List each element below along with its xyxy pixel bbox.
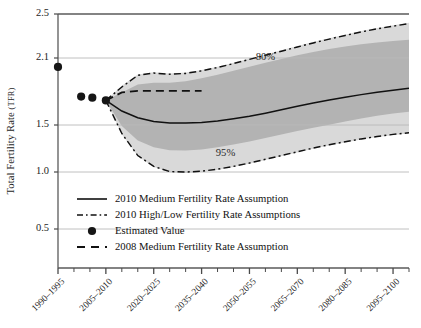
estimated-value-point bbox=[88, 94, 96, 102]
legend-item-highlow-2010[interactable]: 2010 High/Low Fertility Rate Assumptions bbox=[115, 208, 300, 220]
y-tick-label: 1.0 bbox=[36, 165, 49, 176]
legend-item-medium-2010[interactable]: 2010 Medium Fertility Rate Assumption bbox=[115, 192, 289, 204]
chart-svg: 80% 95% 0.51.01.52.12.5 1990–19952005–20… bbox=[0, 0, 421, 328]
x-tick-label: 2050–2055 bbox=[221, 276, 258, 313]
ninetyfive-percent-band-label: 95% bbox=[216, 147, 236, 158]
x-tick-label: 2020–2025 bbox=[125, 276, 162, 313]
legend-item-estimated-value[interactable]: Estimated Value bbox=[115, 224, 185, 236]
x-axis-ticks bbox=[58, 268, 409, 274]
y-tick-label: 2.5 bbox=[36, 7, 49, 18]
x-tick-label: 2065–2070 bbox=[269, 276, 306, 313]
x-tick-label: 2035–2040 bbox=[173, 276, 210, 313]
y-tick-label: 2.1 bbox=[36, 51, 49, 62]
x-tick-label: 2080–2085 bbox=[317, 276, 354, 313]
legend-item-medium-2008[interactable]: 2008 Medium Fertility Rate Assumption bbox=[115, 240, 289, 252]
svg-text:Total Fertility Rate (TFR): Total Fertility Rate (TFR) bbox=[5, 87, 16, 194]
y-axis-title-unit: (TFR) bbox=[7, 87, 16, 109]
y-axis-tick-labels: 0.51.01.52.12.5 bbox=[36, 7, 49, 233]
estimated-value-point bbox=[77, 92, 85, 100]
x-tick-label: 1990–1995 bbox=[30, 276, 67, 313]
estimated-value-point bbox=[54, 63, 62, 71]
x-tick-label: 2005–2010 bbox=[77, 276, 114, 313]
y-tick-label: 0.5 bbox=[36, 222, 49, 233]
series-points-estimated bbox=[54, 63, 110, 105]
estimated-value-point bbox=[102, 96, 110, 104]
eighty-percent-band-label: 80% bbox=[256, 51, 276, 62]
x-tick-label: 2095–2100 bbox=[365, 276, 402, 313]
chart-legend: 2010 Medium Fertility Rate Assumption201… bbox=[77, 192, 300, 252]
y-axis-title: Total Fertility Rate (TFR) bbox=[5, 87, 16, 194]
y-axis-title-main: Total Fertility Rate bbox=[5, 112, 16, 195]
y-tick-label: 1.5 bbox=[36, 118, 49, 129]
legend-marker-dot bbox=[88, 227, 96, 235]
fertility-rate-chart: 80% 95% 0.51.01.52.12.5 1990–19952005–20… bbox=[0, 0, 421, 328]
x-axis-tick-labels: 1990–19952005–20102020–20252035–20402050… bbox=[30, 276, 402, 313]
